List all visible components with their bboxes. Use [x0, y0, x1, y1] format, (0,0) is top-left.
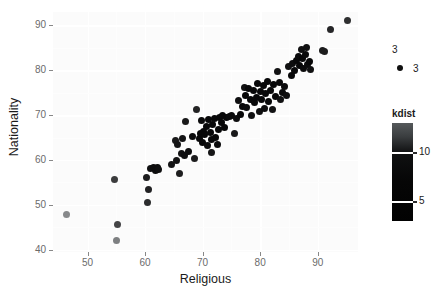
data-point	[179, 135, 186, 142]
y-axis-tick	[49, 70, 53, 71]
shape-legend-entry-label: 3	[413, 63, 419, 74]
gridline	[53, 250, 358, 251]
data-point	[185, 148, 192, 155]
colorbar-tick-outer	[413, 152, 417, 153]
gridline-minor	[53, 227, 358, 228]
data-point	[344, 17, 351, 24]
data-point	[214, 141, 221, 148]
x-axis-tick	[203, 252, 204, 256]
data-point	[143, 174, 150, 181]
data-point	[303, 44, 310, 51]
data-point	[155, 166, 162, 173]
data-point	[269, 106, 276, 113]
y-axis-tick	[49, 205, 53, 206]
x-axis-tick	[260, 252, 261, 256]
data-point	[231, 130, 238, 137]
data-point	[145, 186, 152, 193]
data-point	[237, 111, 244, 118]
x-axis-tick-label: 70	[188, 257, 218, 269]
kdist-legend-title: kdist	[392, 108, 444, 119]
shape-legend-title: 3	[392, 44, 419, 55]
x-axis-tick-label: 60	[130, 257, 160, 269]
data-point	[111, 176, 118, 183]
colorbar-tick-outer	[413, 201, 417, 202]
circle-marker-icon	[392, 61, 408, 75]
x-axis-tick	[318, 252, 319, 256]
gridline	[53, 205, 358, 206]
data-point	[302, 51, 309, 58]
y-axis-tick-label: 90	[14, 20, 46, 30]
y-axis-tick-label: 40	[14, 245, 46, 255]
scatter-plot-figure: 5060708090405060708090 Religious Nationa…	[0, 0, 448, 298]
data-point	[189, 133, 196, 140]
gridline	[53, 25, 358, 26]
x-axis-tick-label: 90	[303, 257, 333, 269]
data-point	[306, 58, 313, 65]
y-axis-tick	[49, 250, 53, 251]
x-axis-tick-label: 80	[245, 257, 275, 269]
kdist-gradient-bar	[392, 123, 413, 221]
y-axis-tick	[49, 25, 53, 26]
y-axis-label: Nationality	[7, 67, 21, 187]
gridline-minor	[53, 182, 358, 183]
data-point	[208, 149, 215, 156]
y-axis-tick	[49, 115, 53, 116]
gridline-minor	[53, 48, 358, 49]
data-point	[113, 237, 120, 244]
data-point	[274, 68, 281, 75]
data-point	[248, 112, 255, 119]
plot-panel	[53, 12, 358, 252]
kdist-colorbar: 105	[392, 123, 444, 221]
data-point	[327, 26, 334, 33]
x-axis-tick-label: 50	[73, 257, 103, 269]
data-point	[258, 96, 265, 103]
data-point	[176, 170, 183, 177]
data-point	[261, 105, 268, 112]
colorbar-tick	[392, 152, 413, 154]
colorbar-tick-label: 10	[419, 147, 430, 157]
data-point	[281, 83, 288, 90]
kdist-colorbar-legend: kdist 105	[392, 108, 444, 221]
gridline-minor	[53, 93, 358, 94]
gridline	[53, 160, 358, 161]
data-point	[173, 157, 180, 164]
data-point	[212, 134, 219, 141]
x-axis-tick	[145, 252, 146, 256]
colorbar-tick	[392, 201, 413, 203]
data-point	[193, 106, 200, 113]
data-point	[243, 104, 250, 111]
colorbar-tick-label: 5	[419, 196, 425, 206]
shape-legend-entry[interactable]: 3	[392, 61, 419, 75]
data-point	[114, 221, 121, 228]
data-point	[221, 124, 228, 131]
data-point	[182, 118, 189, 125]
data-point	[204, 142, 211, 149]
y-axis-tick-label: 50	[14, 200, 46, 210]
x-axis-tick	[88, 252, 89, 256]
data-point	[321, 48, 328, 55]
y-axis-tick	[49, 160, 53, 161]
data-point	[63, 211, 70, 218]
shape-legend: 3 3	[392, 44, 419, 75]
x-axis-label: Religious	[53, 272, 358, 286]
data-point	[265, 98, 272, 105]
data-point	[307, 66, 314, 73]
data-point	[174, 141, 181, 148]
